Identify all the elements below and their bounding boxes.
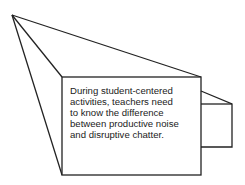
megaphone-caption: During student-centered activities, teac… [70, 85, 200, 140]
cone-bottom-edge [12, 15, 62, 175]
cone-top-edge [12, 15, 201, 77]
handle-box [201, 91, 232, 147]
cone-middle-edge [12, 15, 62, 77]
